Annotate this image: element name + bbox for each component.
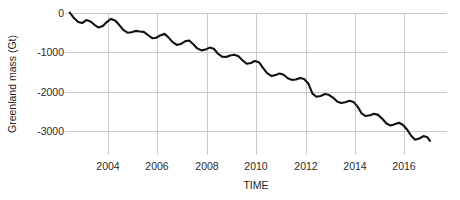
- x-tick-label-2014: 2014: [343, 160, 367, 172]
- greenland-mass-line-chart: 0 -1000 -2000 -3000 2004 2006 2008 2010 …: [0, 0, 460, 200]
- y-tick-label-1000: -1000: [37, 46, 64, 58]
- chart-background: [0, 0, 460, 200]
- x-tick-label-2004: 2004: [96, 160, 120, 172]
- y-tick-label-3000: -3000: [37, 125, 64, 137]
- y-tick-label-2000: -2000: [37, 86, 64, 98]
- x-tick-label-2006: 2006: [145, 160, 169, 172]
- y-tick-label-0: 0: [58, 7, 64, 19]
- x-tick-label-2010: 2010: [244, 160, 268, 172]
- x-tick-label-2016: 2016: [392, 160, 416, 172]
- x-axis-title: TIME: [243, 179, 268, 191]
- x-tick-label-2008: 2008: [195, 160, 219, 172]
- y-axis-title: Greenland mass (Gt): [6, 35, 18, 133]
- x-tick-label-2012: 2012: [294, 160, 318, 172]
- chart-figure: 0 -1000 -2000 -3000 2004 2006 2008 2010 …: [0, 0, 460, 200]
